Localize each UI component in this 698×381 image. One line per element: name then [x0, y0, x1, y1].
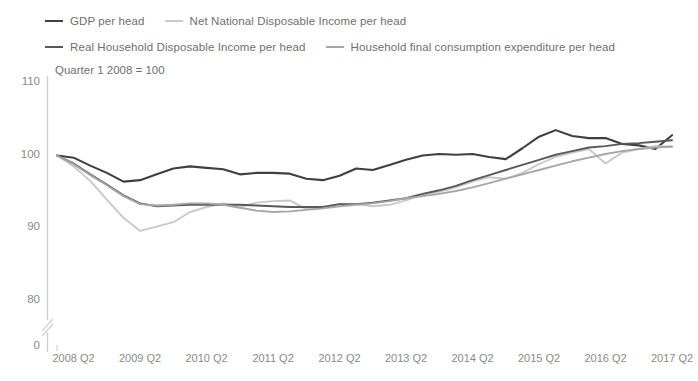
y-axis-zero-label: 0 — [6, 339, 40, 351]
x-axis-tick-label: 2011 Q2 — [238, 352, 308, 364]
series-line-3 — [57, 147, 672, 212]
series-line-0 — [57, 130, 672, 181]
x-axis-tick-label: 2013 Q2 — [371, 352, 441, 364]
series-line-2 — [57, 140, 672, 207]
y-axis-tick-label: 90 — [6, 220, 40, 232]
x-axis-tick-label: 2014 Q2 — [438, 352, 508, 364]
x-axis-tick-label: 2017 Q2 — [637, 352, 698, 364]
x-axis-tick-label: 2015 Q2 — [504, 352, 574, 364]
x-axis-tick-label: 2010 Q2 — [172, 352, 242, 364]
x-axis-tick-label: 2008 Q2 — [39, 352, 109, 364]
y-axis-tick-label: 100 — [6, 148, 40, 160]
x-axis-tick-label: 2012 Q2 — [305, 352, 375, 364]
y-axis-tick-label: 80 — [6, 293, 40, 305]
x-axis-tick-label: 2009 Q2 — [105, 352, 175, 364]
x-axis-tick-label: 2016 Q2 — [571, 352, 641, 364]
y-axis-tick-label: 110 — [6, 75, 40, 87]
